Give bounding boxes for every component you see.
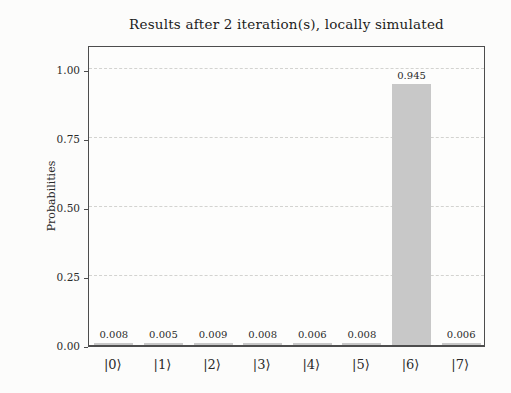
chart-figure: Results after 2 iteration(s), locally si… [0,0,511,393]
bar [442,343,481,345]
y-tick-mark [84,347,88,348]
bar [194,343,233,345]
bar [94,343,133,345]
x-tick-label: |3⟩ [237,357,287,372]
gridline [89,68,484,69]
y-tick-label: 1.00 [38,64,80,76]
bar-value-label: 0.008 [332,329,392,340]
y-axis-label: Probabilities [45,161,58,232]
x-tick-label: |2⟩ [187,357,237,372]
bar [243,343,282,345]
plot-area: 0.0080.0050.0090.0080.0060.0080.9450.006 [88,46,485,347]
x-tick-label: |4⟩ [287,357,337,372]
bar [342,343,381,345]
bar-value-label: 0.006 [431,329,491,340]
y-tick-mark [84,140,88,141]
bar [392,84,431,345]
x-tick-label: |0⟩ [88,357,138,372]
x-tick-label: |5⟩ [336,357,386,372]
y-tick-label: 0.00 [38,340,80,352]
x-tick-label: |6⟩ [386,357,436,372]
y-tick-label: 0.75 [38,133,80,145]
y-tick-mark [84,71,88,72]
y-tick-label: 0.50 [38,202,80,214]
y-tick-label: 0.25 [38,271,80,283]
x-tick-label: |7⟩ [435,357,485,372]
bar [293,343,332,345]
bar [144,343,183,345]
y-tick-mark [84,209,88,210]
bar-value-label: 0.945 [382,70,442,81]
x-tick-label: |1⟩ [138,357,188,372]
chart-title: Results after 2 iteration(s), locally si… [88,16,485,32]
y-tick-mark [84,278,88,279]
